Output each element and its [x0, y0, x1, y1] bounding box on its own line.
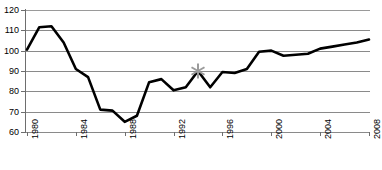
asterisk-marker-icon[interactable] [192, 64, 205, 79]
